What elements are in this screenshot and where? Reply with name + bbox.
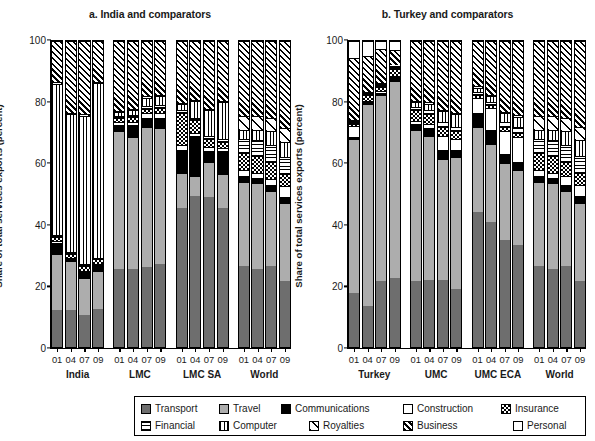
bar-segment-royalties bbox=[349, 120, 359, 121]
x-tick-mark bbox=[580, 348, 581, 352]
bar-segment-financial bbox=[252, 140, 262, 155]
bar-segment-communications bbox=[252, 178, 262, 184]
legend-label: Financial bbox=[155, 421, 195, 431]
stacked-bar bbox=[512, 40, 524, 348]
bar-segment-business bbox=[239, 41, 249, 116]
legend: TransportTravelCommunicationsConstructio… bbox=[134, 396, 586, 436]
bar-segment-computer bbox=[177, 104, 187, 110]
bar-segment-transport bbox=[114, 269, 124, 347]
bar-segment-travel bbox=[411, 130, 421, 281]
bar-segment-insurance bbox=[390, 69, 400, 75]
stacked-bar bbox=[238, 40, 250, 348]
bar-segment-financial bbox=[79, 264, 89, 266]
bar-segment-computer bbox=[451, 114, 461, 126]
y-axis-label-b: Share of total services exports (percent… bbox=[293, 104, 304, 287]
stacked-bar bbox=[450, 40, 462, 348]
bar-segment-business bbox=[204, 41, 214, 109]
bar-segment-royalties bbox=[376, 83, 386, 84]
bar-segment-computer bbox=[142, 98, 152, 106]
x-tick-mark bbox=[147, 348, 148, 352]
x-tick-year: 09 bbox=[575, 354, 585, 365]
bar-segment-business bbox=[190, 41, 200, 100]
bar-segment-royalties bbox=[239, 116, 249, 130]
x-tick-year: 09 bbox=[389, 354, 399, 365]
x-tick-year: 04 bbox=[190, 354, 200, 365]
bar-segment-insurance bbox=[155, 108, 165, 113]
bar-segment-insurance bbox=[252, 156, 262, 173]
x-tick-year: 01 bbox=[349, 354, 359, 365]
bar-segment-travel bbox=[79, 278, 89, 315]
plot-area-a: 02040608010001040709India01040709LMC0104… bbox=[50, 40, 291, 349]
bar-segment-communications bbox=[114, 125, 124, 132]
bar-segment-travel bbox=[218, 174, 228, 208]
bar-segment-insurance bbox=[575, 173, 585, 185]
bar-segment-financial bbox=[177, 110, 187, 112]
bar-segment-insurance bbox=[280, 174, 290, 186]
x-tick-mark bbox=[368, 348, 369, 352]
communications-swatch-icon bbox=[281, 404, 291, 414]
panel-b-title: b. Turkey and comparators bbox=[300, 8, 595, 20]
legend-label: Computer bbox=[233, 421, 277, 431]
bar-segment-insurance bbox=[424, 114, 434, 123]
bar-segment-business bbox=[376, 49, 386, 83]
x-tick-year: 04 bbox=[362, 354, 372, 365]
bar-segment-insurance bbox=[438, 127, 448, 136]
bar-segment-transport bbox=[52, 310, 62, 347]
bar-segment-business bbox=[349, 58, 359, 120]
x-tick-mark bbox=[539, 348, 540, 352]
x-tick-year: 09 bbox=[280, 354, 290, 365]
x-tick-mark bbox=[133, 348, 134, 352]
bar-segment-travel bbox=[114, 131, 124, 269]
bar-segment-construction bbox=[349, 126, 359, 137]
bar-segment-communications bbox=[376, 93, 386, 95]
bar-segment-travel bbox=[376, 95, 386, 282]
x-tick-year: 07 bbox=[561, 354, 571, 365]
legend-row: FinancialComputerRoyaltiesBusinessPerson… bbox=[141, 417, 579, 434]
x-tick-mark bbox=[381, 348, 382, 352]
stacked-bar bbox=[389, 40, 401, 348]
bar-segment-insurance bbox=[486, 105, 496, 108]
bar-segment-financial bbox=[204, 136, 214, 139]
bar-segment-computer bbox=[52, 84, 62, 235]
bar-segment-construction bbox=[252, 173, 262, 178]
bar-segment-transport bbox=[79, 315, 89, 347]
bar-segment-communications bbox=[218, 151, 228, 174]
x-tick-year: 07 bbox=[204, 354, 214, 365]
bar-segment-royalties bbox=[218, 101, 228, 102]
bar-segment-transport bbox=[266, 266, 276, 347]
bar-segment-communications bbox=[438, 150, 448, 159]
bar-segment-travel bbox=[155, 128, 165, 264]
x-tick-year: 04 bbox=[548, 354, 558, 365]
bar-segment-transport bbox=[486, 222, 496, 347]
bar-segment-transport bbox=[500, 240, 510, 347]
bar-segment-royalties bbox=[486, 95, 496, 96]
bar-segment-communications bbox=[486, 130, 496, 144]
bar-segment-personal bbox=[349, 41, 359, 58]
bar-segment-computer bbox=[190, 101, 200, 118]
bar-segment-business bbox=[266, 41, 276, 118]
x-tick-year: 04 bbox=[66, 354, 76, 365]
bar-segment-financial bbox=[561, 145, 571, 162]
bar-segment-communications bbox=[52, 243, 62, 254]
stacked-bar bbox=[533, 40, 545, 348]
x-tick-year: 07 bbox=[499, 354, 509, 365]
bar-segment-business bbox=[128, 41, 138, 109]
stacked-bar bbox=[472, 40, 484, 348]
x-group-label: World bbox=[546, 369, 574, 380]
bar-segment-travel bbox=[451, 157, 461, 289]
stacked-bar bbox=[154, 40, 166, 348]
legend-label: Royalties bbox=[323, 421, 364, 431]
bar-segment-insurance bbox=[548, 156, 558, 173]
stacked-bar bbox=[189, 40, 201, 348]
bar-segment-communications bbox=[424, 128, 434, 136]
bar-segment-computer bbox=[93, 83, 103, 257]
bar-segment-insurance bbox=[266, 162, 276, 179]
bar-segment-transport bbox=[128, 269, 138, 347]
bar-segment-travel bbox=[349, 139, 359, 294]
bar-segment-royalties bbox=[575, 127, 585, 141]
bar-segment-transport bbox=[239, 266, 249, 347]
bar-segment-computer bbox=[114, 112, 124, 116]
x-tick-mark bbox=[182, 348, 183, 352]
bar-segment-business bbox=[451, 41, 461, 113]
bar-segment-business bbox=[93, 41, 103, 82]
